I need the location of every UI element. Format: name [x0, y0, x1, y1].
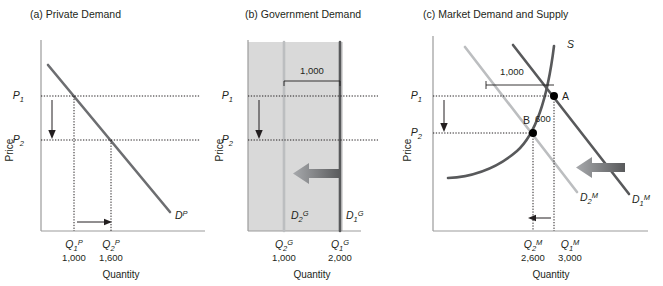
panel-c-gap-label: 1,000 — [500, 66, 524, 77]
panel-c-gap2-label: 600 — [535, 113, 551, 124]
panel-a-demand-label: DP — [175, 209, 188, 222]
panel-b-p1-label: P1 — [222, 89, 233, 104]
panel-b-q2-tick: Q2G — [275, 238, 293, 254]
panel-a-y-axis-label: Price — [4, 138, 15, 161]
panel-c-x-axis-label: Quantity — [532, 269, 569, 280]
panel-c-q1-tick: Q1M — [561, 238, 580, 254]
panel-c-q2-tick: Q2M — [524, 238, 543, 254]
panel-market-demand-supply: (c) Market Demand and Supply S D1M D2M P… — [420, 0, 663, 286]
panel-c-shift-arrow — [576, 157, 625, 178]
panel-c-title: (c) Market Demand and Supply — [423, 8, 569, 20]
panel-c-point-b-label: B — [523, 114, 530, 126]
panel-b-shaded-region — [248, 42, 343, 231]
panel-b-q1-tick: Q1G — [331, 238, 349, 254]
panel-b-title: (b) Government Demand — [245, 8, 361, 20]
panel-c-q1-value: 3,000 — [558, 252, 582, 263]
panel-c-supply-label: S — [567, 38, 574, 50]
panel-a-p1-label: P1 — [13, 89, 24, 104]
panel-a-title: (a) Private Demand — [30, 8, 121, 20]
panel-a-q1-value: 1,000 — [62, 252, 86, 263]
panel-b-d1-label: D1G — [346, 209, 364, 225]
panel-a-x-axis-label: Quantity — [102, 269, 139, 280]
panel-b-x-axis-label: Quantity — [293, 269, 330, 280]
panel-c-q2-value: 2,600 — [521, 252, 545, 263]
panel-b-gap-label: 1,000 — [300, 65, 324, 76]
economics-figure: (a) Private Demand DP P1 P2 Q1P 1,000 Q2… — [0, 0, 663, 286]
panel-private-demand: (a) Private Demand DP P1 P2 Q1P 1,000 Q2… — [0, 0, 222, 286]
panel-c-y-axis-label: Price — [402, 138, 413, 161]
panel-a-price-arrowhead — [48, 130, 55, 139]
panel-b-q2-value: 1,000 — [272, 252, 296, 263]
panel-c-point-a-marker — [550, 92, 558, 100]
panel-a-q1-tick: Q1P — [65, 238, 82, 254]
panel-c-price-arrowhead — [440, 123, 447, 132]
panel-c-d1-label: D1M — [632, 193, 651, 209]
panel-a-q2-tick: Q2P — [102, 238, 119, 254]
panel-b-q1-value: 2,000 — [328, 252, 352, 263]
panel-a-demand-curve — [48, 65, 170, 212]
panel-b-y-axis-label: Price — [214, 138, 225, 161]
panel-c-point-a-label: A — [562, 90, 569, 102]
panel-c-d2-label: D2M — [580, 191, 599, 207]
panel-a-q2-value: 1,600 — [99, 252, 123, 263]
panel-c-point-b-marker — [529, 129, 537, 137]
panel-c-qty-arrowhead — [528, 215, 536, 222]
